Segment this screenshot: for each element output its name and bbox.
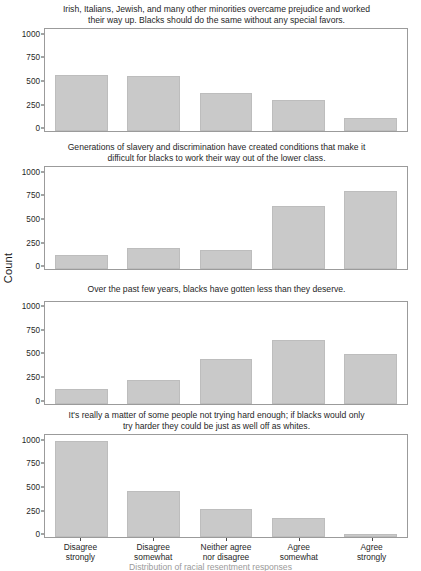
bar-slot	[335, 302, 407, 404]
x-tick-slot: Agree somewhat	[262, 538, 335, 563]
x-axis-labels: Disagree strongly Disagree somewhat Neit…	[44, 538, 408, 563]
facet-title-2: Generations of slavery and discriminatio…	[0, 138, 421, 166]
plot-row-1: 1000 750 500 250 0	[0, 28, 421, 132]
bar[interactable]	[55, 389, 108, 403]
x-tick-mark	[372, 538, 373, 541]
bar[interactable]	[127, 491, 180, 537]
bar[interactable]	[200, 359, 253, 403]
bar-slot	[117, 302, 189, 404]
x-tick-label: Disagree strongly	[44, 543, 117, 563]
bar-group-3	[45, 302, 407, 404]
x-tick-label: Agree somewhat	[262, 543, 335, 563]
facet-title-3: Over the past few years, blacks have got…	[0, 276, 421, 301]
bar[interactable]	[272, 100, 325, 131]
x-tick-label: Neither agree nor disagree	[190, 543, 263, 563]
bar-group-1	[45, 29, 407, 131]
y-tick-label: 500	[26, 76, 40, 85]
facet-panel-3: Over the past few years, blacks have got…	[0, 276, 421, 406]
bar-slot	[335, 167, 407, 269]
bar[interactable]	[200, 509, 253, 537]
bar[interactable]	[344, 534, 397, 537]
y-tick-label: 750	[26, 191, 40, 200]
bar-slot	[117, 167, 189, 269]
y-tick-label: 0	[35, 124, 40, 133]
y-tick-label: 250	[26, 506, 40, 515]
y-tick-label: 1000	[22, 435, 40, 444]
y-tick-label: 0	[35, 262, 40, 271]
bar[interactable]	[344, 191, 397, 269]
plot-row-2: 1000 750 500 250 0	[0, 166, 421, 270]
bar-slot	[262, 435, 334, 537]
bar[interactable]	[344, 354, 397, 403]
bar-slot	[190, 29, 262, 131]
y-tick-label: 500	[26, 349, 40, 358]
x-tick-mark	[80, 538, 81, 541]
bar-slot	[45, 435, 117, 537]
plot-area-2	[44, 166, 408, 270]
y-axis-2: 1000 750 500 250 0	[0, 166, 44, 270]
y-tick-label: 750	[26, 53, 40, 62]
bar-slot	[262, 167, 334, 269]
y-axis-4: 1000 750 500 250 0	[0, 434, 44, 538]
y-tick-label: 1000	[22, 29, 40, 38]
facet-title-1: Irish, Italians, Jewish, and many other …	[0, 0, 421, 28]
bar[interactable]	[272, 518, 325, 537]
y-tick-label: 750	[26, 459, 40, 468]
x-axis-spacer	[0, 538, 44, 563]
bar-slot	[45, 167, 117, 269]
bar-slot	[190, 435, 262, 537]
bar[interactable]	[55, 75, 108, 131]
y-tick-label: 500	[26, 482, 40, 491]
bar-group-4	[45, 435, 407, 537]
bar-slot	[117, 435, 189, 537]
bar-slot	[45, 29, 117, 131]
y-axis-1: 1000 750 500 250 0	[0, 28, 44, 132]
x-tick-slot: Disagree somewhat	[117, 538, 190, 563]
bar[interactable]	[272, 206, 325, 269]
y-tick-label: 750	[26, 325, 40, 334]
bar[interactable]	[127, 76, 180, 131]
bar[interactable]	[200, 250, 253, 269]
bar[interactable]	[272, 340, 325, 403]
x-tick-slot: Disagree strongly	[44, 538, 117, 563]
plot-area-4	[44, 434, 408, 538]
bar[interactable]	[127, 248, 180, 269]
x-tick-label: Agree strongly	[335, 543, 408, 563]
y-tick-label: 0	[35, 396, 40, 405]
plot-row-4: 1000 750 500 250 0	[0, 434, 421, 538]
plot-row-3: 1000 750 500 250 0	[0, 301, 421, 405]
facet-title-4: It's really a matter of some people not …	[0, 406, 421, 434]
y-tick-label: 1000	[22, 302, 40, 311]
x-axis: Disagree strongly Disagree somewhat Neit…	[0, 538, 421, 563]
facet-panel-stack: Irish, Italians, Jewish, and many other …	[0, 0, 421, 546]
bar[interactable]	[344, 118, 397, 131]
facet-panel-2: Generations of slavery and discriminatio…	[0, 138, 421, 276]
y-tick-label: 250	[26, 373, 40, 382]
y-axis-3: 1000 750 500 250 0	[0, 301, 44, 405]
x-tick-mark	[299, 538, 300, 541]
y-tick-label: 250	[26, 100, 40, 109]
x-tick-label: Disagree somewhat	[117, 543, 190, 563]
bar-group-2	[45, 167, 407, 269]
x-tick-slot: Neither agree nor disagree	[190, 538, 263, 563]
bar-slot	[335, 435, 407, 537]
bar-slot	[117, 29, 189, 131]
x-tick-mark	[226, 538, 227, 541]
bar-slot	[262, 29, 334, 131]
bar[interactable]	[200, 93, 253, 131]
bar[interactable]	[55, 255, 108, 269]
facet-panel-4: It's really a matter of some people not …	[0, 406, 421, 546]
bar-slot	[190, 302, 262, 404]
facet-panel-1: Irish, Italians, Jewish, and many other …	[0, 0, 421, 138]
bar-slot	[45, 302, 117, 404]
y-tick-label: 1000	[22, 167, 40, 176]
x-tick-slot: Agree strongly	[335, 538, 408, 563]
bar[interactable]	[55, 441, 108, 537]
bar-slot	[335, 29, 407, 131]
bar[interactable]	[127, 380, 180, 404]
bar-slot	[190, 167, 262, 269]
y-tick-label: 250	[26, 238, 40, 247]
bar-slot	[262, 302, 334, 404]
y-tick-label: 500	[26, 214, 40, 223]
